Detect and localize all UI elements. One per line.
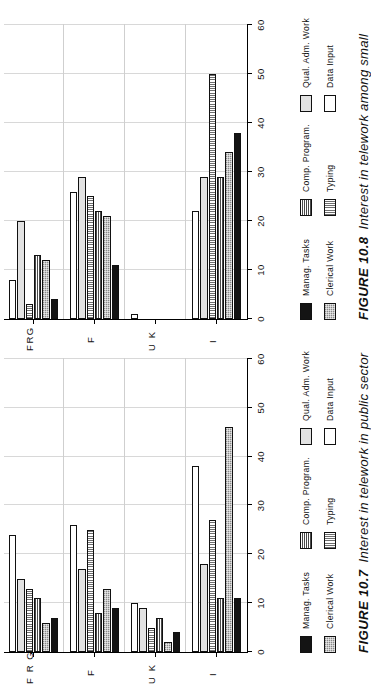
bar — [234, 598, 241, 652]
bar — [217, 598, 224, 652]
x-axis-tick — [247, 318, 252, 319]
x-axis-tick-label: 20 — [255, 215, 266, 226]
bar — [200, 177, 207, 319]
figure-10-7: 0102030405060IU KFF R G Manag. TasksCler… — [0, 334, 381, 667]
x-axis-tick-label: 10 — [255, 597, 266, 608]
x-axis-tick-label: 60 — [255, 19, 266, 30]
plot-area-10-8: 0102030405060IU KFFRG — [4, 6, 266, 320]
bar — [156, 618, 163, 652]
chart-legend-10-8: Manag. TasksClerical WorkComp. Program.T… — [296, 0, 342, 320]
bar — [95, 613, 102, 652]
x-axis-tick — [247, 24, 252, 25]
legend-swatch-qual — [300, 95, 312, 112]
figure-caption-10-8: FIGURE 10.8Interest in telework among sm… — [356, 8, 371, 320]
legend-item-comp: Comp. Program. — [296, 445, 316, 549]
legend-item-comp: Comp. Program. — [296, 112, 316, 216]
legend-swatch-manag — [300, 303, 312, 320]
bar — [51, 299, 58, 319]
x-axis-tick — [247, 171, 252, 172]
x-axis-tick-label: 30 — [255, 166, 266, 177]
x-axis-tick-label: 50 — [255, 402, 266, 413]
bar — [51, 618, 58, 652]
legend-label: Typing — [325, 498, 335, 525]
category-label: I — [206, 339, 217, 343]
bar — [34, 255, 41, 319]
x-axis-tick — [247, 122, 252, 123]
legend-item-typ: Typing — [320, 112, 340, 216]
legend-label: Manag. Tasks — [301, 572, 311, 629]
legend-column: Comp. Program.Typing — [296, 445, 344, 549]
x-axis-tick-label: 10 — [255, 264, 266, 275]
caption-text: Interest in telework in public sector — [356, 353, 371, 563]
bar — [192, 211, 199, 319]
plot-area-10-7: 0102030405060IU KFF R G — [4, 340, 266, 653]
x-axis-tick — [247, 407, 252, 408]
bar — [200, 564, 207, 652]
legend-label: Clerical Work — [325, 241, 335, 296]
legend-label: Clerical Work — [325, 574, 335, 629]
bar-group-uk — [125, 358, 186, 652]
bar-group-frg — [3, 358, 64, 652]
legend-item-data: Data Input — [320, 341, 340, 445]
bar — [139, 608, 146, 652]
x-axis-tick — [247, 651, 252, 652]
bar — [95, 211, 102, 319]
bar-group-frg — [3, 24, 64, 319]
category-tick — [94, 319, 95, 324]
bar — [234, 133, 241, 319]
legend-item-data: Data Input — [320, 8, 340, 112]
bar — [173, 632, 180, 652]
legend-item-manag: Manag. Tasks — [296, 549, 316, 653]
x-axis-tick — [247, 73, 252, 74]
x-axis-tick-label: 0 — [255, 649, 266, 655]
category-label: F R G — [23, 651, 34, 684]
x-axis-tick — [247, 358, 252, 359]
x-axis-tick — [247, 456, 252, 457]
legend-label: Manag. Tasks — [301, 239, 311, 296]
x-axis-tick — [247, 505, 252, 506]
legend-label: Data Input — [325, 378, 335, 421]
bar — [70, 525, 77, 652]
legend-swatch-typ — [324, 532, 336, 549]
bar-group-f — [64, 24, 125, 319]
bar — [103, 216, 110, 319]
category-tick — [155, 652, 156, 657]
legend-label: Typing — [325, 165, 335, 192]
legend-label: Qual. Adm. Work — [301, 351, 311, 421]
x-axis-tick-label: 0 — [255, 316, 266, 322]
legend-swatch-qual — [300, 428, 312, 445]
legend-label: Data Input — [325, 45, 335, 88]
legend-item-qual: Qual. Adm. Work — [296, 341, 316, 445]
x-axis-tick — [247, 269, 252, 270]
legend-item-cler: Clerical Work — [320, 549, 340, 653]
legend-swatch-cler — [324, 303, 336, 320]
legend-label: Comp. Program. — [301, 124, 311, 192]
bar — [164, 642, 171, 652]
bar — [112, 265, 119, 319]
category-tick — [216, 652, 217, 657]
bar — [192, 466, 199, 652]
legend-item-typ: Typing — [320, 445, 340, 549]
legend-swatch-manag — [300, 636, 312, 653]
legend-label: Comp. Program. — [301, 457, 311, 525]
bar — [87, 530, 94, 652]
bar — [78, 177, 85, 319]
category-tick — [33, 319, 34, 324]
legend-label: Qual. Adm. Work — [301, 18, 311, 88]
x-axis-tick-label: 50 — [255, 68, 266, 79]
category-label: F — [84, 669, 95, 676]
bar — [225, 427, 232, 652]
bar — [42, 260, 49, 319]
bar — [78, 569, 85, 652]
bar — [209, 520, 216, 652]
legend-item-manag: Manag. Tasks — [296, 216, 316, 320]
legend-column: Manag. TasksClerical Work — [296, 549, 344, 653]
x-axis-tick-label: 40 — [255, 451, 266, 462]
bar — [209, 74, 216, 319]
category-label: FRG — [23, 326, 34, 351]
legend-swatch-comp — [300, 532, 312, 549]
bar — [217, 177, 224, 319]
bar — [131, 314, 138, 319]
